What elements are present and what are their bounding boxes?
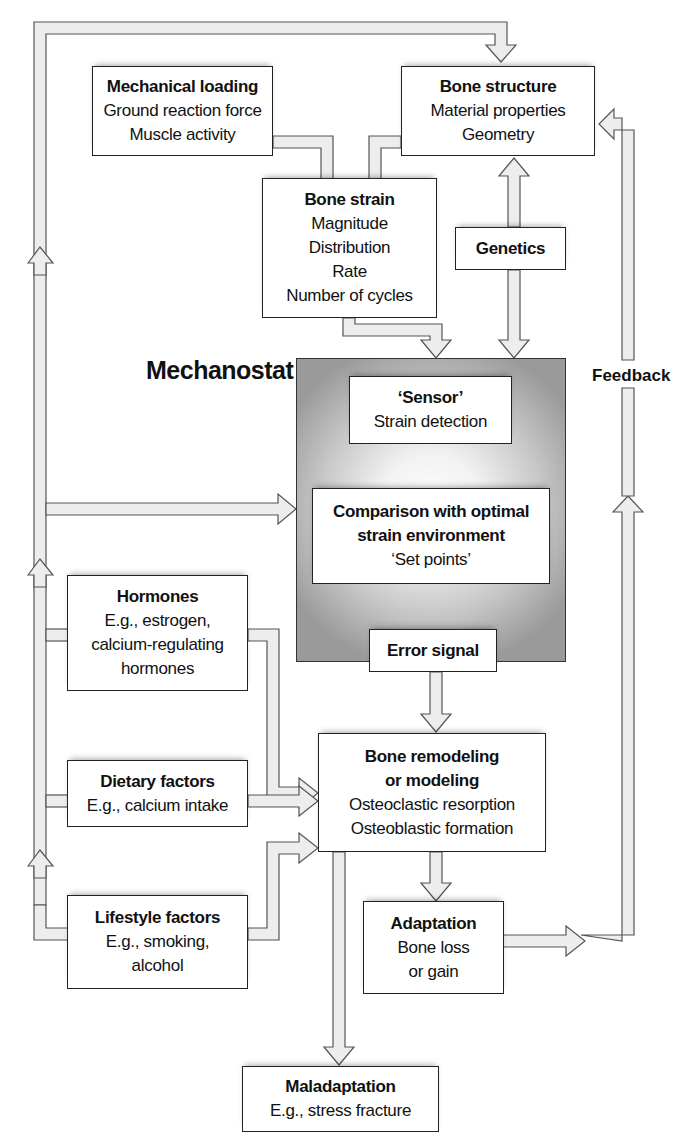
feedback-to-structure-arrow [599,109,634,360]
node-lifestyle-factors: Lifestyle factors E.g., smoking, alcohol [67,895,248,989]
remodeling-to-adaptation-arrow [421,852,451,901]
lifestyle-to-spine [34,905,68,940]
node-comparison: Comparison with optimal strain environme… [312,488,550,584]
node-bone-remodeling: Bone remodeling or modeling Osteoclastic… [318,733,546,852]
remodeling-to-maladaptation-arrow [324,852,354,1065]
node-bone-strain: Bone strain Magnitude Distribution Rate … [262,178,437,318]
feedback-loop-arrow [581,496,643,941]
genetics-mechanostat-arrow [499,270,529,358]
lifestyle-to-remodeling-arrow [248,833,318,940]
spine-to-mechanostat-arrow [46,494,296,524]
node-sensor: ‘Sensor’ Strain detection [349,376,512,444]
node-bone-structure: Bone structure Material properties Geome… [401,66,595,156]
node-genetics: Genetics [455,227,566,270]
feedback-arrow [503,926,585,956]
node-mechanical-loading: Mechanical loading Ground reaction force… [92,66,273,156]
node-hormones: Hormones E.g., estrogen, calcium-regulat… [67,575,248,691]
dietary-to-spine [46,795,68,807]
strain-to-sensor-arrow [343,318,451,358]
spine-arrowhead-lower [28,850,53,878]
node-error-signal: Error signal [369,629,497,672]
node-maladaptation: Maladaptation E.g., stress fracture [242,1066,439,1132]
mechanostat-label: Mechanostat [146,356,293,385]
node-adaptation: Adaptation Bone loss or gain [363,901,504,994]
spine-arrowhead-middle [28,559,53,587]
feedback-label: Feedback [592,366,670,386]
feedback-loop-upper [622,388,634,496]
node-dietary-factors: Dietary factors E.g., calcium intake [67,760,248,827]
genetics-structure-arrow [499,158,529,227]
hormones-to-spine [46,629,68,641]
error-to-remodeling-arrow [421,672,451,732]
spine-arrowhead-upper [28,247,53,275]
